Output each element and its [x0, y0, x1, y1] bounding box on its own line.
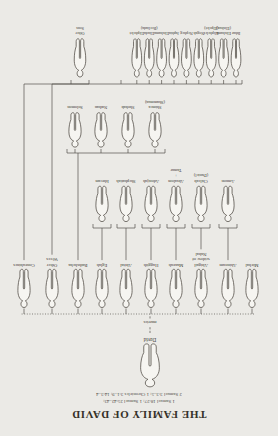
name-label-haggith: Haggith — [143, 263, 159, 268]
person-figure-abigail-widow-of-nabal — [195, 269, 207, 307]
name-label-shimea: Shimea(Shammua) — [144, 100, 165, 110]
person-figure-amnon — [222, 186, 234, 221]
name-label-other-wives: OtherWives — [46, 257, 58, 267]
name-label-nathan: Nathan — [94, 105, 107, 110]
name-label-concubines: Concubines — [13, 263, 35, 268]
person-figure-concubines — [18, 269, 30, 307]
person-figure-shobab — [122, 113, 134, 147]
name-label-bathsheba: Bathsheba — [68, 263, 87, 268]
name-label-other-sons: OtherSons — [75, 26, 85, 36]
person-figure-eglah — [96, 269, 108, 307]
name-label-david: David — [143, 337, 156, 343]
name-label-nepheg-4: Nepheg — [180, 31, 192, 36]
person-figure-michal — [246, 269, 258, 307]
person-figure-haggith — [145, 269, 157, 307]
person-figure-eliphelet-8 — [132, 39, 142, 77]
marries-label: marries — [143, 320, 156, 325]
person-figure-solomon — [69, 113, 81, 147]
person-figure-nogah-3 — [194, 39, 204, 77]
person-figure-eliada-beeliada-7 — [144, 39, 154, 77]
name-label-abigail-widow-of-nabal: Abigailwidow ofNabal — [192, 252, 210, 268]
name-label-solomon: Solomon — [66, 105, 82, 110]
person-figure-abital — [120, 269, 132, 307]
name-label-shobab: Shobab — [122, 105, 135, 110]
person-figure-bathsheba — [72, 269, 84, 307]
person-figure-shimea — [149, 113, 161, 147]
person-figure-absalom — [170, 186, 182, 221]
name-label-absalom: Absalom+Tamar — [168, 168, 184, 183]
person-figure-elishama-6 — [157, 39, 167, 77]
name-label-amnon: Amnon — [221, 179, 235, 184]
person-figure-david — [141, 344, 160, 387]
person-figure-ibhar-0 — [231, 39, 241, 77]
person-figure-nathan — [95, 113, 107, 147]
person-figure-japhia-5 — [169, 39, 179, 77]
person-figure-other-wives — [46, 269, 58, 307]
name-label-nogah-3: Nogah — [193, 31, 204, 36]
name-label-ibhar-0: Ibhar — [231, 31, 240, 36]
person-figure-shephatiah — [120, 186, 132, 221]
person-figure-ahinoam — [222, 269, 234, 307]
family-tree-chart: THE FAMILY OF DAVID 1 Samuel 18:27; 1 Sa… — [0, 0, 278, 436]
person-figure-ithream — [96, 186, 108, 221]
person-figure-adonijah — [145, 186, 157, 221]
person-figure-eliphelet-elpelet-2 — [206, 39, 216, 77]
name-label-ahinoam: Ahinoam — [219, 263, 237, 268]
name-label-abital: Abital — [120, 263, 132, 268]
name-label-shephatiah: Shephatiah — [116, 179, 136, 184]
person-figure-nepheg-4 — [182, 39, 192, 77]
name-label-adonijah: Adonijah — [142, 179, 159, 184]
name-label-chileab: Chileab(Daniel) — [193, 173, 208, 183]
name-label-ithream: Ithream — [95, 179, 109, 184]
name-label-maacah: Maacah — [168, 263, 183, 268]
person-figure-other-sons — [74, 39, 86, 77]
person-figure-maacah — [170, 269, 182, 307]
name-label-eglah: Eglah — [96, 263, 107, 268]
name-label-eliphelet-elpelet-2: Eliphelet(Elpelet) — [203, 26, 218, 36]
person-figure-elishama-elishua-1 — [219, 39, 229, 77]
scanned-page: THE FAMILY OF DAVID 1 Samuel 18:27; 1 Sa… — [0, 0, 278, 436]
name-label-eliphelet-8: Eliphelet — [129, 31, 144, 36]
name-label-elishama-6: Elishama — [154, 31, 169, 36]
family-tree-svg: DavidmarriesMichalAhinoamAbigailwidow of… — [0, 0, 278, 436]
person-figure-chileab — [195, 186, 207, 221]
name-label-michal: Michal — [245, 263, 259, 268]
name-label-japhia-5: Japhia — [169, 31, 179, 36]
